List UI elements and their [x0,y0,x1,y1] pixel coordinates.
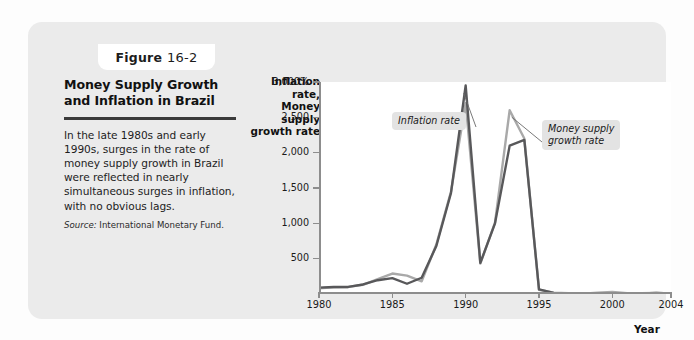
x-axis-line [319,292,671,294]
figure-badge-number: 16-2 [167,50,197,65]
y-axis-tick-label: 1,500 [247,182,309,193]
source-label: Source: [64,220,97,230]
x-axis-tick-label: 1995 [517,299,561,310]
figure-badge-word: Figure [116,50,163,65]
plot-area [319,82,671,294]
title-divider [64,117,236,120]
x-axis-tick [392,292,393,298]
y-axis-title-line-3: growth rate [242,125,320,138]
figure-card: Figure 16-2 Money Supply Growth and Infl… [28,22,666,319]
x-axis-tick [465,292,466,298]
y-axis-tick [313,223,320,224]
plot-svg [319,82,671,294]
annotation-money-supply-growth-rate: Money supply growth rate [542,120,620,150]
x-axis-tick-label: 1985 [370,299,414,310]
chart: Inflation rate, Money supply growth rate… [242,70,687,332]
figure-source: Source: International Monetary Fund. [64,219,242,231]
figure-screenshot: Figure 16-2 Money Supply Growth and Infl… [0,0,694,340]
x-axis-tick [670,292,671,298]
y-axis-tick [313,81,320,82]
figure-title: Money Supply Growth and Inflation in Bra… [64,77,242,108]
x-axis-tick-label: 2000 [590,299,634,310]
y-axis-tick [313,152,320,153]
y-axis-tick-label: 3,000% [247,76,309,87]
x-axis-tick [612,292,613,298]
series-line-inflation-rate [319,86,671,294]
annotation-money-line-1: Money supply [548,123,614,135]
x-axis-tick-label: 1980 [297,299,341,310]
x-axis-tick [318,292,319,298]
figure-badge: Figure 16-2 [98,44,215,70]
y-axis-tick [313,258,320,259]
y-axis-tick-label: 500 [247,252,309,263]
y-axis-tick-label: 1,000 [247,217,309,228]
x-axis-tick-label: 1990 [444,299,488,310]
y-axis-tick [313,187,320,188]
figure-text-column: Money Supply Growth and Inflation in Bra… [64,77,242,231]
source-text: International Monetary Fund. [99,220,224,230]
y-axis-tick [313,117,320,118]
x-axis-tick-label: 2004 [649,299,693,310]
x-axis-tick [538,292,539,298]
figure-description: In the late 1980s and early 1990s, surge… [64,128,242,213]
annotation-money-line-2: growth rate [548,135,614,147]
y-axis-tick-label: 2,500 [247,111,309,122]
x-axis-title: Year [634,323,660,335]
annotation-inflation-rate: Inflation rate [392,112,466,130]
y-axis-tick-label: 2,000 [247,146,309,157]
